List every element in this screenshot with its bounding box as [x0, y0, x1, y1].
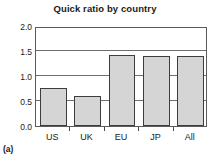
x-axis-tick-label: All — [173, 131, 207, 143]
x-axis-tick-label: JP — [138, 131, 172, 143]
y-axis-tick-label: 0.0 — [2, 123, 32, 132]
y-axis-tick-label: 2.0 — [2, 23, 32, 32]
bar-eu — [109, 55, 136, 126]
bar-all — [177, 56, 204, 127]
y-axis-tick-label: 0.5 — [2, 98, 32, 107]
figure-panel: Quick ratio by country 0.00.51.01.52.0 U… — [0, 0, 210, 162]
bar-jp — [143, 56, 170, 127]
x-axis-tick-label: US — [35, 131, 69, 143]
x-axis-tick-label: UK — [69, 131, 103, 143]
bar-series — [36, 28, 206, 126]
panel-label: (a) — [3, 144, 13, 154]
x-axis-tick-labels: USUKEUJPAll — [35, 131, 207, 145]
bar-us — [40, 88, 67, 127]
y-axis-tick-label: 1.5 — [2, 48, 32, 57]
y-axis-tick-labels: 0.00.51.01.52.0 — [0, 27, 32, 127]
y-axis-tick-label: 1.0 — [2, 73, 32, 82]
x-axis-tick-label: EU — [104, 131, 138, 143]
chart-title: Quick ratio by country — [0, 3, 210, 14]
plot-area — [35, 27, 207, 127]
bar-uk — [74, 96, 101, 126]
